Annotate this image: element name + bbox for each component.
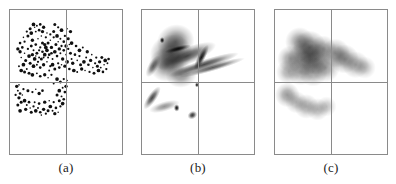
- scatter-point: [55, 77, 59, 81]
- scatter-point: [50, 46, 53, 49]
- scatter-point: [34, 109, 38, 113]
- scatter-point: [47, 57, 49, 59]
- scatter-point: [62, 87, 64, 89]
- scatter-point: [53, 50, 57, 54]
- scatter-point: [79, 63, 82, 66]
- scatter-point: [48, 105, 52, 109]
- density-kernel: [353, 56, 375, 78]
- scatter-point: [43, 100, 46, 103]
- scatter-point: [35, 55, 37, 57]
- panel-c-frame: [274, 9, 388, 155]
- scatter-point: [69, 30, 72, 33]
- isotropic-kernel-layer: [275, 27, 376, 121]
- scatter-point: [22, 63, 26, 67]
- scatter-point: [42, 26, 45, 29]
- scatter-point: [85, 57, 87, 59]
- scatter-point: [91, 54, 93, 56]
- scatter-point: [60, 45, 62, 47]
- scatter-point: [26, 30, 28, 32]
- scatter-point: [54, 43, 57, 46]
- scatter-point: [28, 101, 31, 104]
- scatter-point: [67, 48, 69, 50]
- scatter-point: [71, 62, 74, 65]
- scatter-point: [74, 53, 77, 56]
- scatter-point: [53, 68, 56, 71]
- scatter-point: [35, 88, 37, 90]
- scatter-point: [58, 99, 61, 102]
- scatter-point: [95, 56, 97, 58]
- scatter-point: [57, 111, 59, 113]
- scatter-point: [107, 58, 110, 61]
- scatter-point: [41, 30, 44, 33]
- panel-a-horizontal-axis: [10, 82, 122, 83]
- scatter-point: [29, 62, 32, 65]
- density-kernel: [316, 96, 336, 116]
- scatter-point: [76, 60, 78, 62]
- scatter-point: [100, 67, 102, 69]
- scatter-point: [69, 44, 71, 46]
- scatter-point: [82, 60, 86, 64]
- density-kernel: [186, 109, 199, 121]
- scatter-point: [102, 71, 105, 74]
- scatter-point: [61, 64, 63, 66]
- scatter-point: [62, 98, 65, 101]
- scatter-point: [16, 104, 19, 107]
- scatter-point: [49, 33, 51, 35]
- scatter-point: [58, 47, 61, 50]
- scatter-point: [31, 53, 34, 56]
- scatter-point: [18, 84, 20, 86]
- scatter-point: [88, 71, 90, 73]
- scatter-point: [31, 73, 35, 77]
- scatter-point: [23, 70, 26, 73]
- scatter-point: [14, 94, 16, 96]
- scatter-point: [82, 46, 84, 48]
- scatter-point: [50, 52, 53, 55]
- scatter-point: [34, 101, 36, 103]
- scatter-point: [24, 52, 26, 54]
- scatter-point: [42, 63, 45, 66]
- scatter-point: [45, 113, 47, 115]
- scatter-point: [39, 23, 42, 26]
- panel-c-horizontal-axis: [275, 82, 387, 83]
- scatter-point: [20, 101, 23, 104]
- scatter-point: [18, 65, 20, 67]
- scatter-point: [39, 75, 42, 78]
- scatter-point: [40, 57, 43, 60]
- panel-a-frame: [9, 9, 123, 155]
- scatter-point: [41, 89, 44, 92]
- scatter-point: [47, 77, 49, 79]
- scatter-point: [57, 26, 59, 28]
- scatter-point: [23, 99, 27, 103]
- scatter-point: [46, 61, 48, 63]
- scatter-point: [34, 26, 36, 28]
- scatter-point: [72, 69, 76, 73]
- scatter-point: [16, 47, 19, 50]
- scatter-point: [17, 96, 20, 99]
- scatter-point: [36, 72, 38, 74]
- scatter-point: [41, 42, 44, 45]
- scatter-point: [53, 101, 55, 103]
- scatter-point: [22, 94, 24, 96]
- scatter-point: [17, 90, 19, 92]
- scatter-point: [30, 111, 33, 114]
- scatter-point: [38, 49, 40, 51]
- scatter-point: [26, 89, 29, 92]
- scatter-point: [84, 70, 86, 72]
- scatter-point: [18, 109, 22, 113]
- scatter-point: [56, 55, 59, 58]
- scatter-point: [41, 114, 43, 116]
- scatter-point: [87, 63, 90, 66]
- scatter-point: [48, 100, 50, 102]
- scatter-point: [19, 42, 22, 45]
- scatter-point: [61, 102, 65, 106]
- scatter-point: [94, 62, 96, 64]
- scatter-point: [47, 42, 50, 45]
- scatter-point: [29, 27, 32, 30]
- density-kernel: [174, 104, 180, 111]
- scatter-point: [70, 41, 74, 45]
- scatter-point: [57, 62, 59, 64]
- scatter-point: [103, 59, 107, 63]
- scatter-point: [31, 39, 34, 42]
- scatter-point: [37, 61, 39, 63]
- scatter-point: [30, 45, 33, 48]
